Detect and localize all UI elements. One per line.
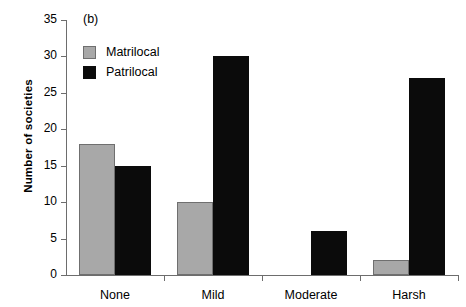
x-axis-tick [262, 275, 263, 281]
y-axis-tick: 20 [61, 129, 66, 130]
bar-chart: Number of societies (b) Matrilocal Patri… [0, 0, 466, 307]
y-axis-tick: 25 [61, 93, 66, 94]
x-axis-tick [164, 275, 165, 281]
y-axis-tick: 5 [61, 239, 66, 240]
x-axis-label-moderate: Moderate [262, 288, 360, 302]
y-axis-tick-label: 30 [44, 48, 57, 62]
x-axis-tick [458, 275, 459, 281]
x-axis-label-harsh: Harsh [360, 288, 458, 302]
x-axis-tick [360, 275, 361, 281]
bar-mild-patrilocal [213, 56, 249, 275]
y-axis-tick-label: 20 [44, 121, 57, 135]
y-axis-tick-label: 0 [50, 267, 57, 281]
y-axis-tick: 10 [61, 202, 66, 203]
y-axis-tick: 30 [61, 56, 66, 57]
x-axis-label-none: None [66, 288, 164, 302]
bar-mild-matrilocal [177, 202, 213, 275]
y-axis-label: Number of societies [22, 46, 34, 226]
y-axis-tick: 15 [61, 166, 66, 167]
y-axis-tick: 0 [61, 275, 66, 276]
bar-none-patrilocal [115, 166, 151, 275]
y-axis-tick-label: 35 [44, 12, 57, 26]
y-axis-tick-label: 10 [44, 194, 57, 208]
bar-harsh-patrilocal [409, 78, 445, 275]
bar-none-matrilocal [79, 144, 115, 275]
x-axis-label-mild: Mild [164, 288, 262, 302]
y-axis-tick-label: 15 [44, 158, 57, 172]
bar-harsh-matrilocal [373, 260, 409, 275]
y-axis-line [66, 20, 67, 275]
y-axis-tick-label: 5 [50, 231, 57, 245]
plot-area: 05101520253035 NoneMildModerateHarsh [66, 20, 458, 275]
y-axis-tick-label: 25 [44, 85, 57, 99]
y-axis-tick: 35 [61, 20, 66, 21]
bar-moderate-patrilocal [311, 231, 347, 275]
